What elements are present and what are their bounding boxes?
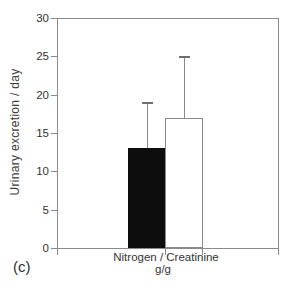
y-tick-label: 0: [19, 242, 49, 255]
y-tick-mark: [51, 95, 57, 96]
black-filled-bar: [128, 148, 166, 248]
x-axis-label: Nitrogen / Creatinine: [113, 251, 218, 263]
error-bar-cap: [142, 102, 153, 104]
y-tick-label: 15: [19, 127, 49, 140]
error-bar-cap: [179, 56, 190, 58]
y-tick-label: 5: [19, 204, 49, 217]
x-tick-mark: [57, 249, 58, 255]
bar-chart-figure: 051015202530 Urinary excretion / day Nit…: [0, 0, 288, 293]
y-tick-label: 25: [19, 50, 49, 63]
y-tick-mark: [51, 56, 57, 57]
error-bar-line: [184, 56, 185, 118]
error-bar-line: [147, 102, 148, 148]
y-tick-mark: [51, 210, 57, 211]
y-tick-mark: [51, 133, 57, 134]
y-tick-label: 30: [19, 12, 49, 25]
y-tick-mark: [51, 171, 57, 172]
panel-label: (c): [13, 258, 31, 275]
white-open-bar: [165, 118, 203, 248]
y-axis-label: Urinary excretion / day: [8, 69, 22, 196]
x-tick-mark: [278, 249, 279, 255]
y-tick-mark: [51, 18, 57, 19]
x-axis-units-label: g/g: [155, 263, 171, 275]
y-tick-label: 20: [19, 89, 49, 102]
y-tick-label: 10: [19, 165, 49, 178]
